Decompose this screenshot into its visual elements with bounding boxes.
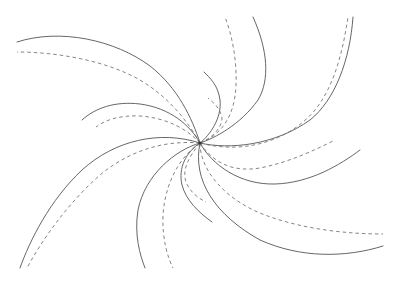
background: [0, 0, 402, 283]
spiral-center-point: [198, 141, 201, 144]
spiral-svg: [0, 0, 402, 283]
spiral-diagram: [0, 0, 402, 283]
